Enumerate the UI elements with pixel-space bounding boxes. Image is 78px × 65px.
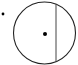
external-point [2,13,5,16]
geometry-diagram [0,0,78,65]
center-point [43,32,47,36]
